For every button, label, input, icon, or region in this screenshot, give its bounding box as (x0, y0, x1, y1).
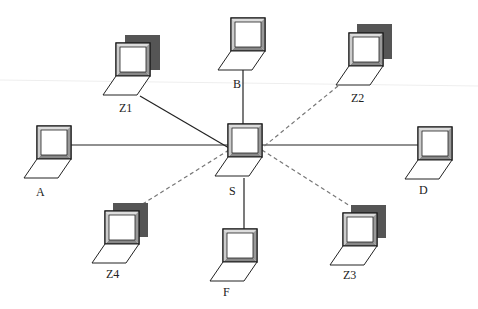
laptop-icon (330, 213, 377, 265)
laptop-icon (103, 43, 150, 95)
laptop-icon (92, 211, 139, 263)
node-z2: Z2 (336, 33, 383, 105)
node-a: A (24, 126, 71, 199)
network-diagram: Z1 B Z2 A S D Z4 F Z3 (0, 0, 478, 309)
node-label-z4: Z4 (106, 267, 119, 281)
node-f: F (210, 229, 257, 299)
laptop-icon (405, 127, 452, 179)
node-z3: Z3 (330, 213, 377, 282)
node-label-b: B (233, 77, 241, 91)
node-label-z3: Z3 (343, 268, 356, 282)
laptop-icon (218, 18, 265, 70)
laptop-icon (215, 124, 262, 176)
edge-s-z2 (262, 86, 338, 148)
node-label-a: A (36, 185, 45, 199)
node-label-s: S (229, 184, 236, 198)
edge-s-z3 (262, 150, 350, 206)
node-b: B (218, 18, 265, 91)
node-z1: Z1 (103, 43, 150, 115)
edge-s-z4 (141, 150, 229, 205)
laptop-icon (210, 229, 257, 281)
edge-s-z1 (140, 96, 229, 148)
laptop-icon (24, 126, 71, 178)
node-s: S (215, 124, 262, 198)
node-label-d: D (419, 183, 428, 197)
node-label-z1: Z1 (119, 101, 132, 115)
node-label-f: F (223, 285, 230, 299)
node-d: D (405, 127, 452, 197)
node-label-z2: Z2 (351, 91, 364, 105)
laptop-icon (336, 33, 383, 85)
node-z4: Z4 (92, 211, 139, 281)
